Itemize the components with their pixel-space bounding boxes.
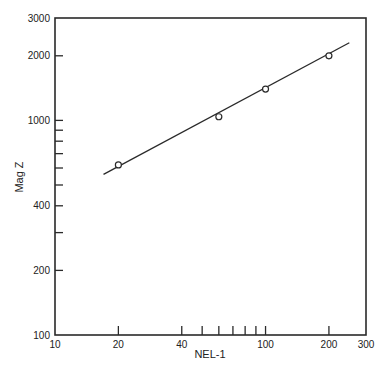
y-tick-label: 400 [33,200,50,211]
data-point-marker [216,114,222,120]
y-axis-ticks: 100200400100020003000 [28,13,63,341]
x-tick-label: 10 [49,339,61,350]
x-tick-label: 300 [358,339,375,350]
y-tick-label: 200 [33,265,50,276]
y-tick-label: 3000 [28,13,51,24]
y-tick-label: 2000 [28,50,51,61]
fit-line [104,43,350,175]
x-axis-ticks: 102040100200300 [49,326,374,350]
data-point-marker [326,53,332,59]
y-tick-label: 100 [33,330,50,341]
x-axis-label: NEL-1 [194,348,225,360]
plot-border [55,18,366,335]
data-point-marker [115,162,121,168]
regression-line [104,43,350,175]
log-log-chart: 102040100200300 100200400100020003000 NE… [0,0,386,370]
x-tick-label: 200 [321,339,338,350]
data-point-marker [263,86,269,92]
y-tick-label: 1000 [28,115,51,126]
y-axis-label: Mag Z [13,161,25,192]
x-tick-label: 100 [257,339,274,350]
x-tick-label: 20 [113,339,125,350]
plot-frame [55,18,366,335]
x-tick-label: 40 [176,339,188,350]
